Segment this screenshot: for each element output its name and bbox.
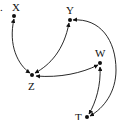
node-w-label: W [95,47,106,59]
node-y [68,18,72,22]
node-z [30,73,34,77]
node-x [12,14,16,18]
edge-x-z [12,19,30,73]
node-t-label: T [75,111,82,120]
causal-diagram: . X Y Z W T [0,0,117,120]
node-w [98,61,102,65]
node-x-label: X [12,1,20,13]
node-t [85,115,89,119]
node-z-label: Z [28,80,35,92]
edge-y-z [35,23,69,73]
edge-w-t [89,67,100,114]
node-y-label: Y [66,4,74,16]
stray-mark: . [0,1,3,13]
